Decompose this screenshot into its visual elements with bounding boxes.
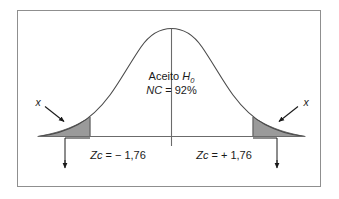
left-critical-value: = − 1,76 xyxy=(102,149,145,161)
figure-container: Aceito H0 NC = 92% x x Zc = − 1,76 Zc = … xyxy=(0,0,339,199)
left-tail-variable-label: x xyxy=(34,96,41,108)
null-hypothesis-symbol: H xyxy=(182,70,190,82)
figure-frame xyxy=(18,11,321,187)
right-critical-value-label: Zc = + 1,76 xyxy=(195,149,252,161)
right-tail-variable-label: x xyxy=(302,96,309,108)
acceptance-label-text: Aceito xyxy=(149,70,183,82)
normal-distribution-diagram: Aceito H0 NC = 92% x x Zc = − 1,76 Zc = … xyxy=(0,0,339,199)
right-critical-value: = + 1,76 xyxy=(208,149,251,161)
confidence-level-value: = 92% xyxy=(162,84,197,96)
confidence-level-label-line2: NC = 92% xyxy=(146,84,197,96)
right-critical-symbol: Zc xyxy=(195,149,209,161)
confidence-level-symbol: NC xyxy=(146,84,162,96)
left-critical-symbol: Zc xyxy=(89,149,103,161)
left-critical-value-label: Zc = − 1,76 xyxy=(89,149,146,161)
